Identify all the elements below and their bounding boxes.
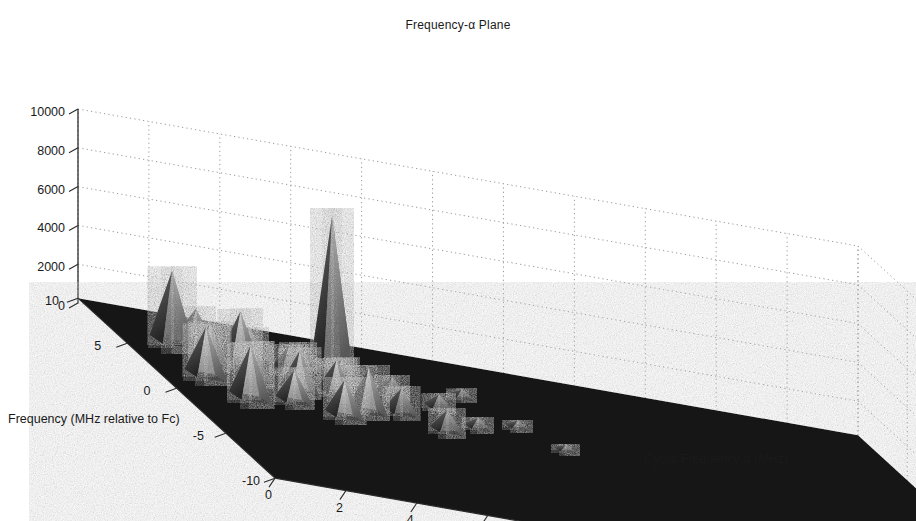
surface-canvas xyxy=(0,0,916,521)
z-tick-label-8000: 8000 xyxy=(0,144,65,158)
z-tick-label-10000: 10000 xyxy=(0,105,65,119)
figure-3d-surface-plot: Frequency-α Plane Cyclic Frequency α (MH… xyxy=(0,0,916,521)
y-tick-label-0: 0 xyxy=(144,384,151,398)
z-tick-label-4000: 4000 xyxy=(0,221,65,235)
z-tick-label-6000: 6000 xyxy=(0,183,65,197)
y-tick-label-5: 5 xyxy=(94,339,101,353)
x-axis-label: Cyclic Frequency α (MHz) xyxy=(644,452,788,466)
x-tick-label-4: 4 xyxy=(407,513,414,521)
z-tick-label-0: 0 xyxy=(0,299,65,313)
y-axis-label: Frequency (MHz relative to Fc) xyxy=(8,412,180,426)
z-tick-label-2000: 2000 xyxy=(0,260,65,274)
x-tick-label-2: 2 xyxy=(336,501,343,515)
y-tick-label--10: -10 xyxy=(242,474,260,488)
y-tick-label--5: -5 xyxy=(193,429,204,443)
x-tick-label-0: 0 xyxy=(265,488,272,502)
